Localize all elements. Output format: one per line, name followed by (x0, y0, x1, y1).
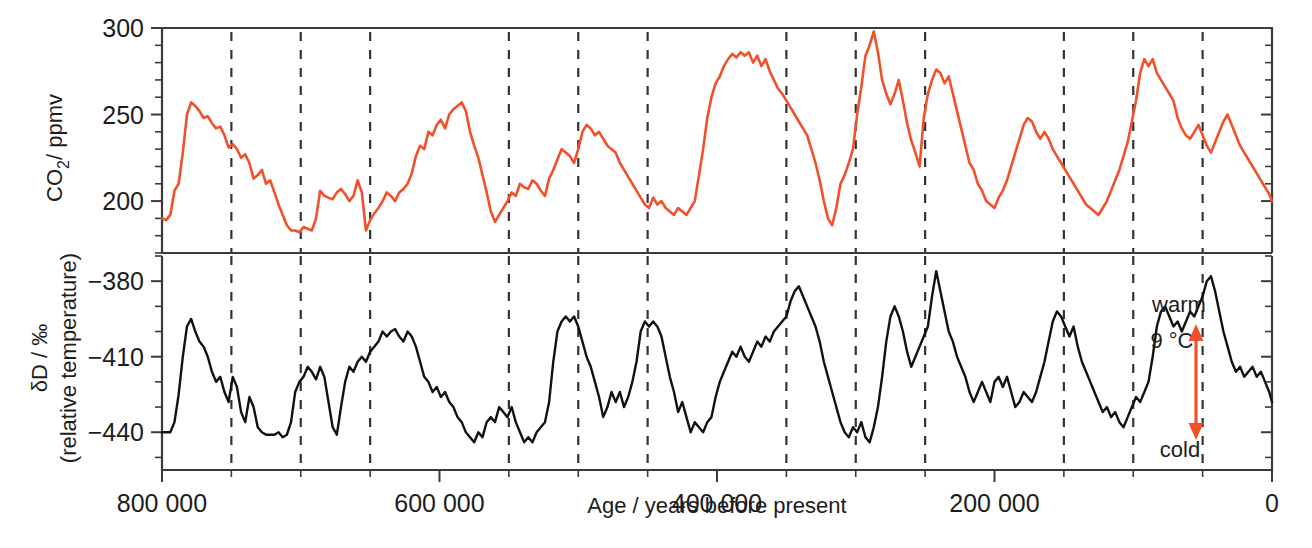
x-tick-label: 0 (1265, 489, 1279, 517)
bottom-panel-frame (162, 256, 1272, 470)
x-axis-title: Age / years before present (587, 493, 846, 518)
co2-axis-sub: 2 (55, 160, 72, 169)
annotation-cold-label: cold (1160, 437, 1200, 462)
top-panel-frame (162, 28, 1272, 253)
deuterium-axis-sub: (relative temperature) (56, 253, 81, 463)
y-axis-title-co2: CO2/ ppmv (42, 94, 72, 202)
y-tick-label: −380 (88, 267, 144, 295)
chart-svg: 200250300−440−410−380800 000600 000400 0… (0, 0, 1312, 548)
y-tick-label: 250 (102, 101, 144, 129)
data-traces-layer (162, 31, 1272, 442)
y-axis-title-deuterium: δD / ‰ (relative temperature) (27, 253, 81, 463)
figure-root: 200250300−440−410−380800 000600 000400 0… (0, 0, 1312, 548)
y-tick-label: −440 (88, 418, 144, 446)
deuterium-axis-main: δD / ‰ (27, 324, 52, 392)
data-trace-deuterium (162, 271, 1272, 442)
data-trace-CO2 (162, 31, 1272, 232)
x-tick-label: 600 000 (394, 489, 484, 517)
x-tick-label: 200 000 (949, 489, 1039, 517)
annotation-delta-t-label: 9 °C (1150, 328, 1193, 353)
tick-labels-layer: 200250300−440−410−380800 000600 000400 0… (88, 14, 1279, 517)
x-tick-label: 800 000 (117, 489, 207, 517)
svg-text:CO2/ ppmv: CO2/ ppmv (42, 94, 72, 202)
co2-axis-unit: / ppmv (42, 94, 67, 160)
co2-axis-main: CO (42, 169, 67, 202)
y-tick-label: 300 (102, 14, 144, 42)
y-tick-label: 200 (102, 187, 144, 215)
annotation-warm-label: warm (1151, 292, 1206, 317)
gridlines-layer (231, 32, 1202, 468)
y-tick-label: −410 (88, 343, 144, 371)
